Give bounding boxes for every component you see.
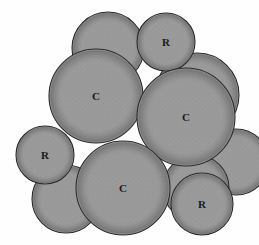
particle-diagram-canvas: RCCRCR bbox=[0, 0, 259, 245]
particle-rim-shading bbox=[172, 174, 233, 235]
particle-rim-shading bbox=[77, 142, 170, 235]
particle-rim-shading bbox=[17, 127, 74, 184]
particle-circle bbox=[171, 173, 233, 235]
particle-packing-figure: RCCRCR bbox=[0, 0, 259, 245]
particle-circle bbox=[16, 126, 74, 184]
particle-circle bbox=[49, 49, 143, 143]
particle-rim-shading bbox=[50, 50, 143, 143]
particle-circle bbox=[137, 13, 195, 71]
particle-circle bbox=[76, 141, 170, 235]
particle-rim-shading bbox=[138, 14, 195, 71]
